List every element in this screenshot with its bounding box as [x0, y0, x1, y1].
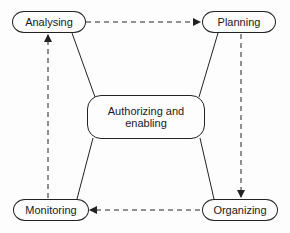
spoke-monitoring	[77, 138, 93, 199]
node-monitoring-label: Monitoring	[25, 204, 76, 216]
node-monitoring: Monitoring	[13, 199, 89, 221]
node-analysing: Analysing	[12, 11, 86, 33]
center-label-line1: Authorizing and	[108, 105, 184, 117]
spoke-planning	[199, 33, 218, 97]
node-authorizing-and-enabling: Authorizing and enabling	[87, 95, 205, 139]
node-planning-label: Planning	[218, 16, 261, 28]
spoke-organizing	[200, 138, 214, 199]
node-planning: Planning	[202, 11, 276, 33]
node-analysing-label: Analysing	[25, 16, 73, 28]
node-organizing-label: Organizing	[213, 204, 266, 216]
center-label-line2: enabling	[125, 117, 167, 129]
node-organizing: Organizing	[202, 199, 278, 221]
spoke-analysing	[72, 33, 95, 97]
